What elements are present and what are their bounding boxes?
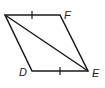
label-e: E <box>92 67 100 79</box>
parallelogram-diagram: F D E <box>0 0 105 88</box>
label-f: F <box>64 9 72 21</box>
diagonal <box>5 15 88 71</box>
label-d: D <box>19 66 27 78</box>
